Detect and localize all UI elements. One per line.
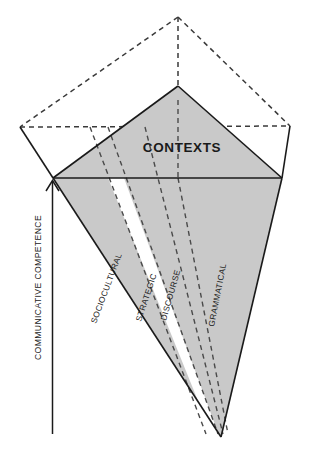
- contexts-cap-fill: [53, 86, 282, 178]
- communicative-competence-axis: [46, 181, 59, 435]
- outer-right-riser: [282, 126, 290, 178]
- contexts-label: CONTEXTS: [143, 140, 221, 155]
- communicative-competence-diagram: CONTEXTS COMMUNICATIVE COMPETENCE SOCIOC…: [0, 0, 312, 458]
- outer-left-riser: [20, 127, 53, 178]
- diagram-canvas: CONTEXTS COMMUNICATIVE COMPETENCE SOCIOC…: [0, 0, 312, 458]
- wedge-label-sociocultural: SOCIOCULTURAL: [89, 251, 124, 324]
- axis-label-communicative-competence: COMMUNICATIVE COMPETENCE: [33, 215, 43, 360]
